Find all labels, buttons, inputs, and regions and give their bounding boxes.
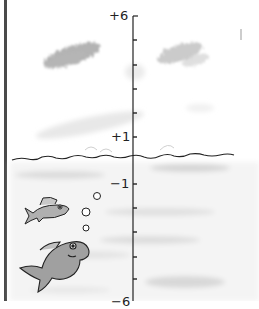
label-minus-6: −6 [111,295,130,308]
cloud-left [41,37,104,73]
label-plus-1: +1 [111,130,130,143]
label-minus-1: −1 [110,177,129,190]
cloud-right [155,38,210,69]
label-plus-6: +6 [109,9,128,22]
water-surface-line [12,154,234,160]
wave-sketches [85,145,174,152]
